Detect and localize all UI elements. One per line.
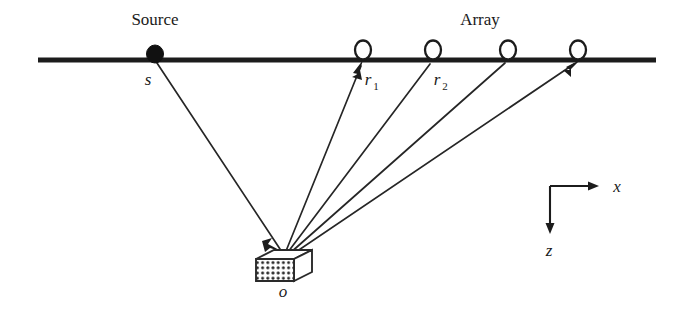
ray-group-downgoing [155,60,283,252]
arrowhead-at-receiver-1 [352,60,363,80]
receiver-marker-1 [355,41,371,60]
receiver-array [355,41,586,60]
receiver-1-index-label: 1 [373,80,379,92]
ray-object-to-receiver-2 [288,64,430,252]
ray-source-to-object [155,60,280,249]
source-symbol-label: s [145,70,152,89]
receiver-marker-4 [570,41,586,60]
seismic-geometry-figure: Source Array s r 1 r 2 o x z [0,0,677,312]
axis-x-arrowhead [588,182,599,191]
axis-z-arrowhead [546,223,555,234]
receiver-1-symbol-label: r [365,70,372,89]
axis-z-label: z [545,241,553,260]
receiver-marker-3 [500,41,516,60]
coordinate-axes [546,182,600,235]
axis-x-label: x [612,177,621,196]
receiver-marker-2 [425,41,441,60]
object-symbol-label: o [279,282,288,301]
source-heading-label: Source [131,10,178,29]
figure-canvas: Source Array s r 1 r 2 o x z [0,0,677,312]
ray-group-upgoing [286,60,580,256]
array-heading-label: Array [460,10,500,29]
ray-object-to-receiver-3 [289,63,505,254]
ray-object-to-receiver-4 [290,64,574,256]
scatterer-box [256,250,312,281]
receiver-2-symbol-label: r [434,70,441,89]
source-marker [147,45,164,63]
receiver-2-index-label: 2 [442,80,448,92]
box-front-face [256,259,294,281]
